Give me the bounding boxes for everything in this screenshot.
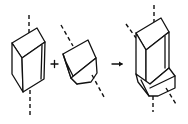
axis-upper-dashed xyxy=(61,25,73,46)
prism-crystal xyxy=(12,15,45,118)
plus-operator xyxy=(51,61,58,68)
result-axis-diagonal-top xyxy=(126,24,136,38)
twinned-result xyxy=(126,5,176,112)
tilted-block xyxy=(61,25,104,97)
axis-lower-dashed xyxy=(92,75,104,97)
arrow-operator xyxy=(112,62,123,67)
twinning-diagram xyxy=(0,0,188,124)
